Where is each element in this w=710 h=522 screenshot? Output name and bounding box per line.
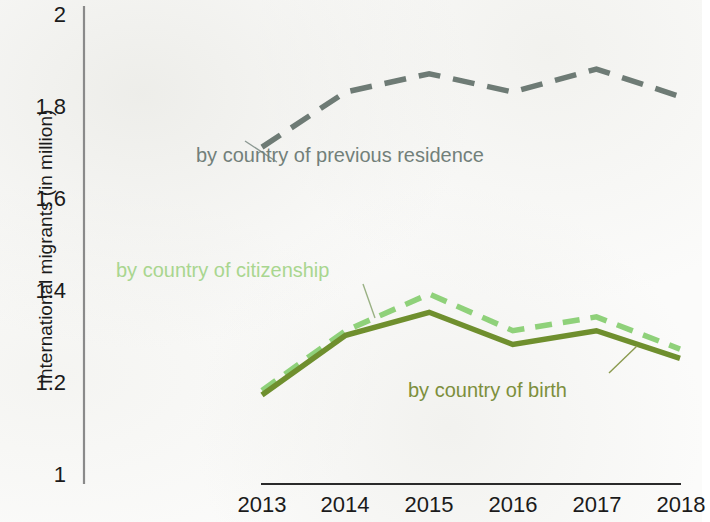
x-tick-label-2018: 2018 [648, 492, 710, 518]
series-line-previous-residence [262, 69, 680, 147]
y-tick-label-1: 1 [10, 462, 66, 488]
y-axis-title: International migrants (in million) [35, 97, 57, 397]
x-tick-label-2014: 2014 [312, 492, 378, 518]
x-tick-label-2016: 2016 [480, 492, 546, 518]
leader-line-birth [609, 346, 637, 373]
series-line-citizenship [262, 294, 680, 390]
series-label-previous-residence: by country of previous residence [196, 144, 484, 167]
series-label-birth: by country of birth [408, 379, 567, 402]
leader-line-citizenship [363, 284, 375, 318]
series-label-citizenship: by country of citizenship [116, 259, 329, 282]
x-tick-label-2013: 2013 [229, 492, 295, 518]
y-tick-label-2: 2 [10, 2, 66, 28]
x-tick-label-2015: 2015 [396, 492, 462, 518]
x-tick-label-2017: 2017 [564, 492, 630, 518]
